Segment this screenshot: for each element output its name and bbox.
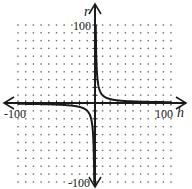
- grid-dot: [170, 95, 171, 96]
- grid-dot: [64, 95, 65, 96]
- grid-dot: [48, 118, 49, 119]
- grid-dot: [132, 63, 133, 64]
- grid-dot: [132, 142, 133, 143]
- grid-dot: [102, 110, 103, 111]
- grid-dot: [40, 79, 41, 80]
- grid-dot: [64, 71, 65, 72]
- grid-dot: [132, 173, 133, 174]
- grid-dot: [79, 173, 80, 174]
- grid-dot: [17, 95, 18, 96]
- grid-dot: [110, 158, 111, 159]
- grid-dot: [17, 173, 18, 174]
- grid-dot: [33, 118, 34, 119]
- grid-dot: [102, 79, 103, 80]
- grid-dot: [110, 126, 111, 127]
- grid-dot: [110, 48, 111, 49]
- grid-dot: [170, 181, 171, 182]
- grid-dot: [33, 24, 34, 25]
- grid-dot: [40, 32, 41, 33]
- grid-dot: [170, 56, 171, 57]
- graph-canvas: [0, 0, 192, 189]
- grid-dot: [170, 24, 171, 25]
- grid-dot: [71, 173, 72, 174]
- grid-dot: [17, 71, 18, 72]
- grid-dot: [110, 71, 111, 72]
- grid-dot: [140, 87, 141, 88]
- grid-dot: [110, 63, 111, 64]
- grid-dot: [148, 166, 149, 167]
- grid-dot: [17, 56, 18, 57]
- grid-dot: [110, 173, 111, 174]
- grid-dot: [140, 150, 141, 151]
- grid-dot: [17, 87, 18, 88]
- grid-dot: [64, 118, 65, 119]
- grid-dot: [56, 24, 57, 25]
- grid-dot: [155, 63, 156, 64]
- grid-dot: [40, 126, 41, 127]
- grid-dot: [48, 126, 49, 127]
- grid-dot: [56, 32, 57, 33]
- grid-dot: [140, 71, 141, 72]
- grid-dot: [110, 118, 111, 119]
- grid-dot: [155, 142, 156, 143]
- grid-dot: [148, 32, 149, 33]
- grid-dot: [71, 142, 72, 143]
- grid-dot: [148, 142, 149, 143]
- grid-dot: [79, 95, 80, 96]
- grid-dot: [140, 134, 141, 135]
- grid-dot: [163, 173, 164, 174]
- grid-dot: [17, 134, 18, 135]
- grid-dot: [71, 166, 72, 167]
- grid-dot: [117, 24, 118, 25]
- grid-dot: [163, 48, 164, 49]
- grid-dot: [33, 150, 34, 151]
- grid-dot: [33, 63, 34, 64]
- grid-dot: [110, 110, 111, 111]
- grid-dot: [148, 48, 149, 49]
- grid-dot: [132, 71, 133, 72]
- grid-dot: [56, 95, 57, 96]
- grid-dot: [56, 40, 57, 41]
- grid-dot: [25, 63, 26, 64]
- grid-dot: [71, 118, 72, 119]
- grid-dot: [117, 63, 118, 64]
- grid-dot: [125, 48, 126, 49]
- grid-dot: [48, 71, 49, 72]
- grid-dot: [140, 56, 141, 57]
- grid-dot: [71, 126, 72, 127]
- grid-dot: [79, 142, 80, 143]
- grid-dot: [125, 134, 126, 135]
- grid-dot: [79, 40, 80, 41]
- grid-dot: [33, 126, 34, 127]
- grid-dot: [148, 126, 149, 127]
- grid-dot: [56, 181, 57, 182]
- grid-dot: [102, 166, 103, 167]
- grid-dot: [64, 158, 65, 159]
- grid-dot: [110, 32, 111, 33]
- grid-dot: [102, 56, 103, 57]
- grid-dot: [33, 40, 34, 41]
- grid-dot: [117, 126, 118, 127]
- grid-dot: [140, 79, 141, 80]
- grid-dot: [125, 87, 126, 88]
- grid-dot: [87, 95, 88, 96]
- grid-dot: [71, 150, 72, 151]
- grid-dot: [48, 48, 49, 49]
- grid-dot: [117, 134, 118, 135]
- grid-dot: [170, 142, 171, 143]
- grid-dot: [132, 56, 133, 57]
- grid-dot: [25, 150, 26, 151]
- grid-dot: [117, 48, 118, 49]
- grid-dot: [148, 71, 149, 72]
- grid-dot: [117, 110, 118, 111]
- grid-dot: [155, 71, 156, 72]
- grid-dot: [125, 79, 126, 80]
- grid-dot: [140, 158, 141, 159]
- grid-dot: [155, 95, 156, 96]
- grid-dot: [79, 48, 80, 49]
- grid-dot: [132, 40, 133, 41]
- grid-dot: [17, 40, 18, 41]
- grid-dot: [33, 142, 34, 143]
- grid-dot: [148, 110, 149, 111]
- grid-dot: [79, 56, 80, 57]
